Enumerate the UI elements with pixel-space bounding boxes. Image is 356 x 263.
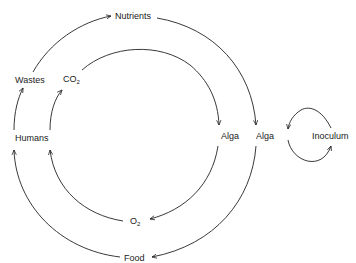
arrows-layer — [0, 0, 356, 263]
arrow-humans-to-wastes — [14, 88, 23, 130]
o2-main: O — [130, 216, 137, 226]
arrow-alga-to-inoculum — [288, 140, 331, 161]
node-nutrients: Nutrients — [115, 11, 151, 21]
arrow-food-to-humans — [14, 150, 120, 257]
diagram-canvas: Nutrients Wastes CO2 Humans Alga Alga In… — [0, 0, 356, 263]
arrow-nutrients-to-alga — [157, 18, 256, 125]
co2-main: CO — [63, 74, 77, 84]
arrow-alga-to-o2 — [150, 146, 218, 219]
node-inoculum: Inoculum — [312, 131, 349, 141]
node-food: Food — [124, 253, 145, 263]
node-co2: CO2 — [63, 74, 80, 84]
arrow-co2-to-alga — [82, 49, 219, 125]
node-alga-inner: Alga — [221, 131, 239, 141]
node-humans: Humans — [15, 133, 49, 143]
arrow-o2-to-humans — [50, 150, 123, 221]
co2-subscript: 2 — [77, 79, 80, 85]
node-o2: O2 — [130, 216, 140, 226]
node-wastes: Wastes — [15, 75, 45, 85]
o2-subscript: 2 — [137, 221, 140, 227]
arrow-inoculum-to-alga — [288, 108, 331, 129]
arrow-alga-to-food — [152, 146, 256, 257]
node-alga-outer: Alga — [256, 131, 274, 141]
arrow-wastes-to-nutrients — [33, 16, 111, 72]
arrow-humans-to-co2 — [50, 90, 62, 130]
